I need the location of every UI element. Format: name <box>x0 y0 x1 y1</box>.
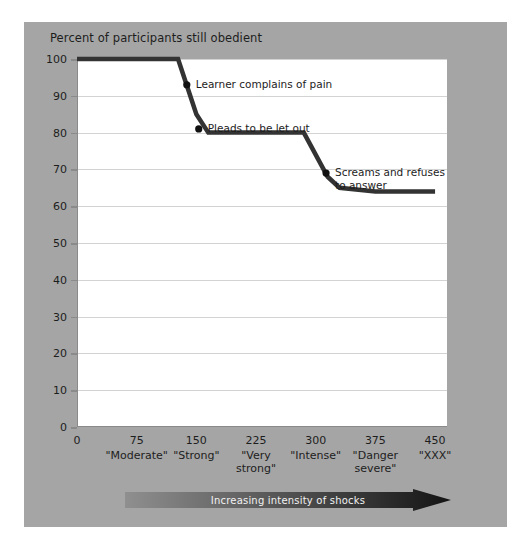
x-tick-word-label: "Strong" <box>173 449 219 462</box>
x-tick-word-label: "Moderate" <box>105 449 167 462</box>
x-tick-label: 375 <box>365 434 386 447</box>
chart-annotation: Screams and refuses to answer <box>335 166 445 192</box>
x-tick-word-label: "Very strong" <box>236 449 276 475</box>
x-tick-label: 300 <box>305 434 326 447</box>
y-tick-label: 40 <box>53 273 67 286</box>
x-tick-label: 0 <box>74 434 81 447</box>
x-tick-word-label: "XXX" <box>419 449 452 462</box>
y-tick-label: 30 <box>53 310 67 323</box>
y-axis: 0102030405060708090100 <box>24 59 74 427</box>
figure-panel: Percent of participants still obedient 0… <box>24 22 507 527</box>
x-tick-word-label: "Danger severe" <box>353 449 399 475</box>
y-tick-label: 20 <box>53 347 67 360</box>
y-tick-label: 80 <box>53 126 67 139</box>
y-tick-label: 10 <box>53 384 67 397</box>
data-line-svg <box>77 59 447 427</box>
y-tick-label: 60 <box>53 200 67 213</box>
x-axis: 075"Moderate"150"Strong"225"Very strong"… <box>24 427 507 487</box>
annotation-marker-dot <box>183 81 190 88</box>
y-tick-label: 100 <box>46 53 67 66</box>
chart-title: Percent of participants still obedient <box>50 31 262 45</box>
x-tick-label: 450 <box>425 434 446 447</box>
y-tick-label: 50 <box>53 237 67 250</box>
y-tick-label: 70 <box>53 163 67 176</box>
chart-annotation: Pleads to be let out <box>208 122 310 135</box>
y-tick-label: 90 <box>53 89 67 102</box>
annotation-marker-dot <box>195 125 202 132</box>
chart-annotation: Learner complains of pain <box>196 78 332 91</box>
intensity-arrow-icon <box>125 489 451 511</box>
annotation-marker-dot <box>322 169 329 176</box>
x-tick-word-label: "Intense" <box>290 449 341 462</box>
x-tick-label: 225 <box>246 434 267 447</box>
x-tick-label: 75 <box>130 434 144 447</box>
x-tick-label: 150 <box>186 434 207 447</box>
